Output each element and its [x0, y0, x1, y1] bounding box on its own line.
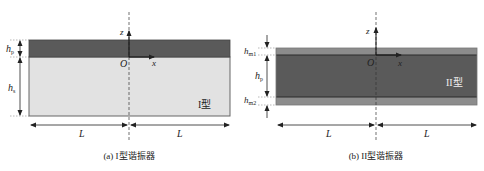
piezo-layer [276, 55, 477, 97]
L-left-label: L [78, 128, 85, 139]
caption-a: (a) I型谐振器 [103, 150, 154, 161]
x-label: x [397, 58, 402, 68]
electrode-bottom-layer [276, 97, 477, 105]
hp-label: hp [255, 70, 263, 82]
panel-b: hm1 hp hm2 z x O II型 L L (b) II型谐振器 [244, 12, 477, 161]
z-label: z [119, 27, 124, 37]
resonator-diagram: hp hs z x O I型 L L (a) I型谐振器 [0, 0, 484, 171]
panel-a: hp hs z x O I型 L L (a) I型谐振器 [6, 12, 230, 161]
z-label: z [365, 26, 370, 36]
L-right-label: L [176, 128, 183, 139]
hm1-label: hm1 [244, 46, 256, 57]
x-label: x [151, 58, 156, 68]
hm2-label: hm2 [244, 95, 256, 106]
type-label: II型 [446, 76, 463, 88]
origin-label: O [367, 57, 374, 68]
origin-label: O [120, 58, 127, 69]
caption-b: (b) II型谐振器 [349, 150, 404, 161]
type-label: I型 [198, 98, 211, 110]
L-right-label: L [423, 128, 430, 139]
hp-label: hp [6, 43, 14, 55]
hs-label: hs [8, 82, 16, 94]
L-left-label: L [325, 128, 332, 139]
